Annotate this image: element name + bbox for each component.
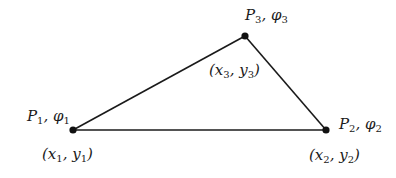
p2-symbol: P xyxy=(339,115,349,133)
p3-sep: , xyxy=(261,6,271,24)
edge-p1-p3 xyxy=(73,36,245,130)
label-p3-coords: (x3, y3) xyxy=(209,63,260,80)
p3c-y: y xyxy=(239,61,247,79)
p2-phi: φ xyxy=(365,115,376,133)
p2c-close: ) xyxy=(354,146,360,164)
p2c-sep: , xyxy=(330,146,340,164)
node-p3 xyxy=(241,32,248,39)
p3-symbol: P xyxy=(245,6,255,24)
node-p2 xyxy=(322,126,329,133)
node-p1 xyxy=(69,126,76,133)
label-p1-coords: (x1, y1) xyxy=(42,147,93,164)
p2-sep: , xyxy=(355,115,365,133)
p3-phisub: 3 xyxy=(282,14,288,25)
p1c-y: y xyxy=(72,145,80,163)
p2c-y: y xyxy=(339,146,347,164)
label-p1: P1, φ1 xyxy=(27,109,70,126)
edge-p3-p2 xyxy=(245,36,326,130)
p3-phi: φ xyxy=(271,6,282,24)
p3c-close: ) xyxy=(254,61,260,79)
p1-phi: φ xyxy=(53,107,64,125)
p3c-sep: , xyxy=(230,61,240,79)
p1c-close: ) xyxy=(87,145,93,163)
p1-symbol: P xyxy=(27,107,37,125)
p1c-sep: , xyxy=(63,145,73,163)
p1-sep: , xyxy=(43,107,53,125)
label-p3: P3, φ3 xyxy=(245,8,288,25)
label-p2-coords: (x2, y2) xyxy=(309,148,360,165)
p2-phisub: 2 xyxy=(376,123,382,134)
label-p2: P2, φ2 xyxy=(339,117,382,134)
p1-phisub: 1 xyxy=(64,115,70,126)
